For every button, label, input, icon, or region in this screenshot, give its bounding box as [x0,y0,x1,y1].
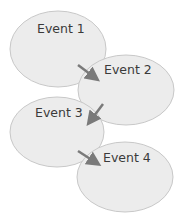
node-label: Event 1 [37,21,85,36]
event-flow-diagram: Event 1 Event 2 Event 3 Event 4 [0,0,182,218]
node-label: Event 4 [103,150,151,165]
node-label: Event 2 [104,62,152,77]
node-event-4: Event 4 [77,142,173,212]
node-label: Event 3 [35,105,83,120]
